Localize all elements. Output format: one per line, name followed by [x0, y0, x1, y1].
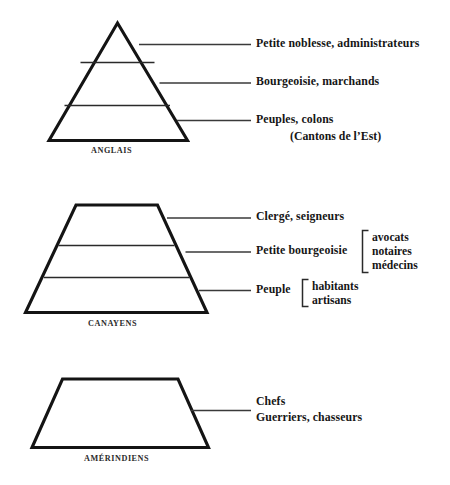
canayens-brace-item-notaires: notaires [372, 246, 412, 258]
group-anglais-shape [49, 23, 251, 141]
anglais-stratum-3-label: Peuples, colons [256, 114, 334, 126]
anglais-stratum-2-label: Bourgeoisie, marchands [256, 76, 379, 88]
group-amerindiens-shape [32, 379, 251, 448]
canayens-stratum-1-label: Clergé, seigneurs [256, 211, 344, 223]
group-canayens-shape [26, 205, 252, 313]
canayens-brace-item-artisans: artisans [312, 295, 351, 307]
anglais-group-caption: ANGLAIS [91, 147, 132, 155]
canayens-group-caption: CANAYENS [88, 320, 137, 328]
anglais-triangle-outline [49, 23, 188, 141]
canayens-stratum-2-label: Petite bourgeoisie [256, 245, 347, 257]
canayens-brace-item-habitants: habitants [312, 281, 358, 293]
social-pyramid-diagram: Petite noblesse, administrateurs Bourgeo… [0, 0, 450, 485]
brace-peuple [303, 280, 309, 307]
amerindiens-stratum-1-label: Chefs [256, 396, 285, 408]
canayens-trapezoid-outline [26, 205, 208, 313]
amerindiens-stratum-1-sublabel: Guerriers, chasseurs [256, 412, 362, 424]
amerindiens-group-caption: AMÉRINDIENS [84, 455, 149, 463]
brace-petite-bourgeoisie [363, 231, 369, 273]
anglais-stratum-3-sublabel: (Cantons de l’Est) [290, 131, 381, 143]
anglais-stratum-1-label: Petite noblesse, administrateurs [256, 38, 419, 50]
canayens-brace-item-avocats: avocats [372, 232, 409, 244]
canayens-stratum-3-label: Peuple [256, 284, 291, 296]
amerindiens-trapezoid-outline [32, 379, 209, 448]
canayens-brace-item-medecins: médecins [372, 260, 418, 272]
